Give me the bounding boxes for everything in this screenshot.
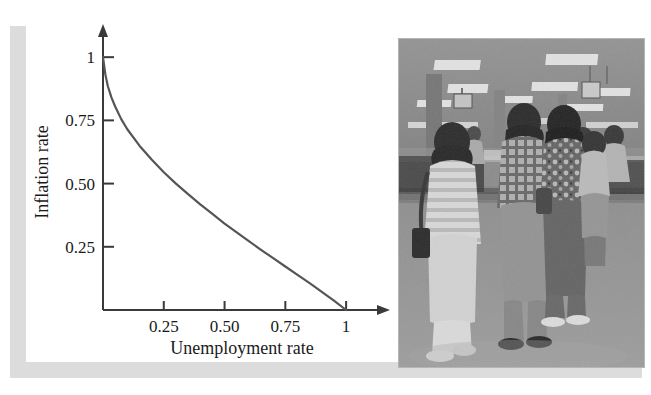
y-tick-label-0.25: 0.25 <box>65 238 95 257</box>
decorative-shadow-left <box>10 26 26 366</box>
x-tick-label-0.25: 0.25 <box>149 317 179 336</box>
x-axis-title: Unemployment rate <box>170 338 313 358</box>
chart-axes <box>98 24 390 315</box>
y-tick-label-0.50: 0.50 <box>65 175 95 194</box>
phillips-curve-line <box>103 57 346 310</box>
unemployment-office-photograph <box>398 38 645 368</box>
figure-root: 0.250.500.751 0.250.500.751 Unemployment… <box>0 0 651 395</box>
y-tick-label-0.75: 0.75 <box>65 111 95 130</box>
chart-canvas: 0.250.500.751 0.250.500.751 Unemployment… <box>26 20 396 372</box>
phillips-curve-chart: 0.250.500.751 0.250.500.751 Unemployment… <box>26 20 396 372</box>
y-axis-tick-labels: 0.250.500.751 <box>65 48 95 257</box>
x-tick-label-0.75: 0.75 <box>270 317 300 336</box>
photo-film-grain <box>398 38 645 368</box>
x-axis-tick-labels: 0.250.500.751 <box>149 317 350 336</box>
x-tick-label-0.50: 0.50 <box>210 317 240 336</box>
y-axis-title: Inflation rate <box>32 125 52 218</box>
x-tick-label-1: 1 <box>342 317 351 336</box>
x-axis-ticks <box>164 301 346 310</box>
y-tick-label-1: 1 <box>87 48 96 67</box>
photograph-canvas <box>398 38 645 368</box>
